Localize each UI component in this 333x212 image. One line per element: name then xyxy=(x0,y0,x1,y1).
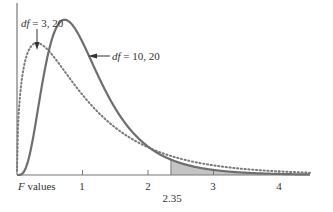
tick-label-3: 3 xyxy=(210,180,216,192)
tick-label-2: 2 xyxy=(145,180,151,192)
arrow-df-3-20 xyxy=(35,29,40,50)
tick-label-4: 4 xyxy=(276,180,282,192)
tick-label-1: 1 xyxy=(79,180,85,192)
f-distribution-chart: df = 3, 20 df = 10, 20 F values 1 2 3 4 … xyxy=(0,0,333,212)
x-axis-label: F values xyxy=(17,180,56,192)
critical-value-label: 2.35 xyxy=(162,192,182,204)
label-df-10-20: df = 10, 20 xyxy=(112,50,160,62)
curve-df-3-20 xyxy=(17,43,310,173)
curve-df-10-20 xyxy=(17,20,310,175)
label-df-3-20: df = 3, 20 xyxy=(21,17,64,29)
arrow-df-10-20 xyxy=(88,54,110,59)
